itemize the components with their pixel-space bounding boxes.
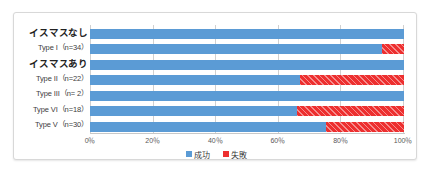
category-item-label: Type V（n=30） [35,116,88,134]
chart-card: イスマスなしType I（n=34）イスマスありType II（n=22）Typ… [13,12,417,160]
bar-segment-success[interactable] [90,60,404,70]
bar-track [90,122,404,132]
bar-segment-success[interactable] [90,29,404,39]
bar-segment-failure[interactable] [300,75,404,85]
x-tick-label-0: 0％ [85,135,96,145]
bar-track [90,44,404,54]
bar-segment-success[interactable] [90,122,326,132]
bar-segment-failure[interactable] [326,122,405,132]
bar-track [90,106,404,116]
bar-track [90,29,404,39]
value-axis: 0％20％40％60％80％100％ [90,135,404,147]
legend-swatch-icon [223,151,229,157]
plot-body [90,25,404,133]
category-axis: イスマスなしType I（n=34）イスマスありType II（n=22）Typ… [14,25,90,133]
bar-segment-success[interactable] [90,106,297,116]
axis-baseline [90,133,405,134]
bar-track [90,91,404,101]
legend-label: 成功 [194,149,210,160]
bar-segment-success[interactable] [90,75,300,85]
chart-legend: 成功失敗 [14,147,417,160]
legend-swatch-icon [186,151,192,157]
x-tick-label-80: 80％ [333,135,348,145]
x-tick-label-20: 20％ [145,135,160,145]
bar-segment-failure[interactable] [297,106,404,116]
x-tick-label-60: 60％ [271,135,286,145]
x-tick-label-100: 100％ [394,135,412,145]
x-tick-label-40: 40％ [208,135,223,145]
legend-item-success[interactable]: 成功 [186,149,210,160]
bar-segment-failure[interactable] [382,44,404,54]
bar-segment-success[interactable] [90,44,382,54]
bar-segment-success[interactable] [90,91,404,101]
chart-plot-region: イスマスなしType I（n=34）イスマスありType II（n=22）Typ… [14,13,417,160]
bar-track [90,60,404,70]
legend-item-failure[interactable]: 失敗 [223,149,247,160]
bar-track [90,75,404,85]
legend-label: 失敗 [231,149,247,160]
